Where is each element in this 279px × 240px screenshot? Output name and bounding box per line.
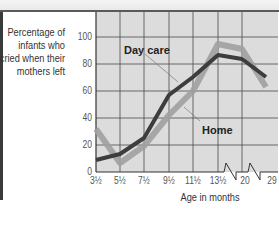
x-tick: 7½: [133, 175, 155, 186]
daycare-annotation: Day care: [124, 44, 170, 56]
home-annotation: Home: [202, 124, 233, 136]
x-axis-label: Age in months: [157, 191, 263, 203]
x-tick: 29: [261, 175, 279, 186]
x-tick: 13½: [207, 175, 229, 186]
x-tick: 20: [234, 175, 256, 186]
x-tick: 9½: [158, 175, 180, 186]
x-tick: 11½: [182, 175, 204, 186]
x-tick: 5½: [109, 175, 131, 186]
x-tick: 3½: [85, 175, 107, 186]
